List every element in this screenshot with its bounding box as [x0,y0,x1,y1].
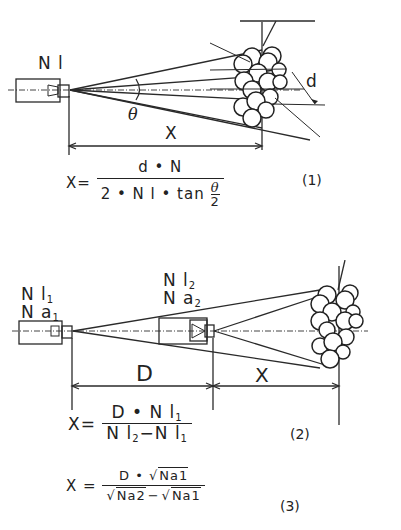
equation-1: X= d • N 2 • N l • tan θ2 [66,158,224,208]
camera1-body [19,321,62,344]
equation-2-denominator-b: N l [155,423,181,443]
grape-cluster-2 [311,285,363,368]
angle-label-theta: θ [128,107,138,123]
equation-3-numerator-prefix: D • [119,468,149,483]
equation-3: X = D • √Na1 √Na2−√Na1 [66,468,205,503]
equation-3-fraction: D • √Na1 √Na2−√Na1 [102,468,204,503]
camera1-label-na1: N a1 [21,304,60,323]
grape-cluster [234,47,287,127]
equation-2-numerator-sub: 1 [175,412,182,423]
equation-3-denominator: √Na2−√Na1 [102,485,204,503]
half-theta-denominator: 2 [210,195,219,208]
sqrt-sign-1: √ [149,468,158,483]
equation-2-denominator-b-sub: 1 [181,433,188,444]
equation-2-numerator: D • N l1 [112,404,183,423]
diameter-label-d: d [306,73,318,90]
camera2-na-text: N a [163,288,195,308]
equation-2-numerator-text: D • N l [112,402,176,422]
equation-3-minus: − [146,488,162,503]
equation-3-number: (3) [280,498,300,514]
camera2-nl-text: N l [163,270,189,290]
distance-label-x-2: X [255,365,269,385]
equation-1-lhs: X= [66,174,91,192]
equation-2-lhs: X= [68,414,96,434]
distance-label-x: X [165,125,178,142]
camera1-lens [62,326,72,338]
equation-1-denominator: 2 • N l • tan θ2 [97,178,224,208]
sqrt-sign-3: √ [162,488,171,503]
camera2-label-na2: N a2 [163,290,202,309]
equation-2-denominator-a: N l [106,423,132,443]
sqrt-sign-2: √ [106,488,115,503]
camera1-nl-text: N l [21,284,47,304]
equation-2: X= D • N l1 N l2−N l1 [68,404,192,444]
equation-2-minus: − [140,423,155,443]
equation-2-number: (2) [290,426,310,442]
equation-1-fraction: d • N 2 • N l • tan θ2 [97,158,224,208]
equation-2-fraction: D • N l1 N l2−N l1 [102,404,192,444]
equation-3-numerator: D • √Na1 [115,468,192,485]
equation-1-denominator-text: 2 • N l • tan [101,185,211,203]
baseline-label-d: D [136,363,153,385]
equation-3-lhs: X = [66,477,97,495]
half-theta: θ2 [210,181,219,208]
equation-2-denominator: N l2−N l1 [102,423,192,444]
camera1-na-text: N a [21,302,53,322]
camera2-na-sub: 2 [195,298,202,309]
equation-3-denominator-radicand-b: Na1 [171,487,201,503]
figure2-drawing [0,260,401,430]
camera-label-nl: N l [38,55,64,72]
equation-2-denominator-a-sub: 2 [132,433,139,444]
half-theta-numerator: θ [211,181,220,195]
equation-1-numerator: d • N [108,158,212,178]
equation-3-denominator-radicand-a: Na2 [116,487,146,503]
equation-1-number: (1) [302,172,322,188]
equation-3-numerator-radicand: Na1 [158,467,188,483]
camera1-na-sub: 1 [53,312,60,323]
